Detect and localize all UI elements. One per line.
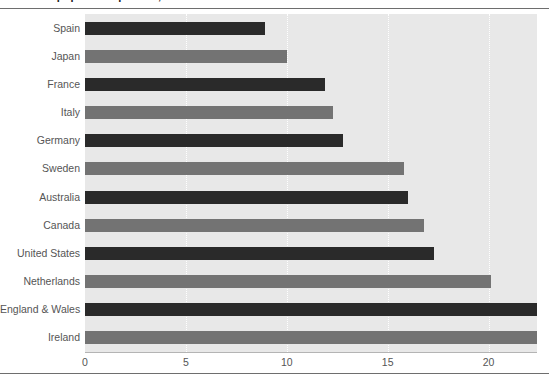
category-label: Italy [0, 106, 80, 119]
category-label: United States [0, 247, 80, 260]
bar [85, 134, 343, 147]
chart-title-cropped: Prison population per 100,000 [0, 0, 549, 7]
category-axis-labels: SpainJapanFranceItalyGermanySwedenAustra… [0, 14, 80, 352]
gridline-10 [287, 14, 288, 352]
x-tick-label: 0 [82, 356, 88, 368]
x-tick-label: 10 [281, 356, 293, 368]
category-label: Japan [0, 50, 80, 63]
bar [85, 331, 537, 344]
category-label: Ireland [0, 331, 80, 344]
bar [85, 106, 333, 119]
bar [85, 191, 408, 204]
bar [85, 303, 537, 316]
bar [85, 78, 325, 91]
plot-area [85, 14, 537, 352]
bar [85, 22, 265, 35]
bar [85, 275, 491, 288]
gridline-20 [489, 14, 490, 352]
gridline-5 [186, 14, 187, 352]
x-tick-label: 20 [483, 356, 495, 368]
category-label: Spain [0, 22, 80, 35]
category-label: Australia [0, 191, 80, 204]
bar [85, 219, 424, 232]
bar-chart-figure: Prison population per 100,000 SpainJapan… [0, 0, 549, 382]
bottom-rule [0, 373, 549, 374]
bar [85, 247, 434, 260]
category-label: Sweden [0, 162, 80, 175]
bar [85, 50, 287, 63]
category-label: Canada [0, 219, 80, 232]
top-rule [0, 8, 549, 9]
category-label: England & Wales [0, 303, 80, 316]
category-label: Germany [0, 134, 80, 147]
value-axis-labels: 05101520 [0, 356, 549, 370]
x-tick-label: 15 [382, 356, 394, 368]
x-tick-label: 5 [183, 356, 189, 368]
gridline-15 [388, 14, 389, 352]
x-axis-line [85, 352, 537, 353]
bar [85, 162, 404, 175]
category-label: France [0, 78, 80, 91]
category-label: Netherlands [0, 275, 80, 288]
